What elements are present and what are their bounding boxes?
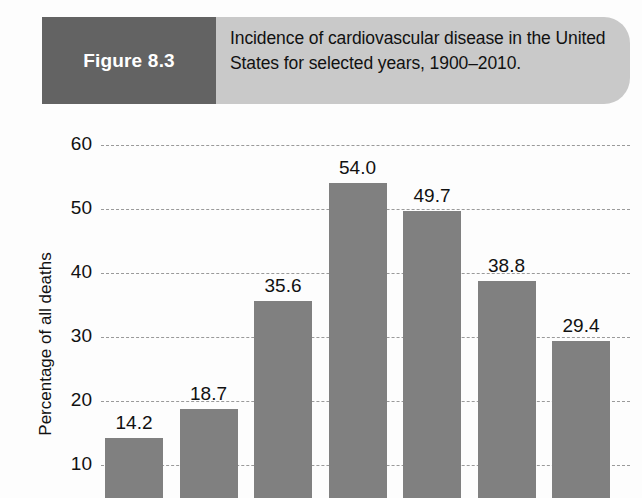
y-tick-label: 50 <box>50 197 92 219</box>
bar <box>105 438 163 498</box>
y-tick-label: 30 <box>50 325 92 347</box>
bar <box>329 183 387 498</box>
bar <box>478 281 536 498</box>
figure-number-label: Figure 8.3 <box>83 50 175 72</box>
bar <box>180 409 238 498</box>
y-tick-label: 20 <box>50 389 92 411</box>
bar-value-label: 18.7 <box>172 383 246 405</box>
bar-value-label: 54.0 <box>321 157 395 179</box>
gridline-60 <box>101 145 630 146</box>
figure-number-box: Figure 8.3 <box>42 17 216 104</box>
bar-value-label: 14.2 <box>97 412 171 434</box>
bar <box>552 341 610 498</box>
bar-value-label: 49.7 <box>395 185 469 207</box>
y-tick-label: 10 <box>50 453 92 475</box>
bar <box>254 301 312 498</box>
bar-value-label: 38.8 <box>470 255 544 277</box>
bar-value-label: 29.4 <box>544 315 618 337</box>
bar-chart: Percentage of all deaths 605040302010 14… <box>0 104 642 498</box>
figure-banner: Figure 8.3 Incidence of cardiovascular d… <box>42 17 630 104</box>
y-tick-label: 40 <box>50 261 92 283</box>
bar-value-label: 35.6 <box>246 275 320 297</box>
y-tick-label: 60 <box>50 133 92 155</box>
bar <box>403 211 461 498</box>
figure-caption: Incidence of cardiovascular disease in t… <box>230 26 620 75</box>
